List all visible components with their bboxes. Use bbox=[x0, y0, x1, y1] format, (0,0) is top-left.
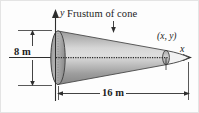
frustum-of-cone-label: Frustum of cone bbox=[67, 9, 137, 20]
x-axis-label: x bbox=[180, 44, 184, 54]
height-dimension-label: 8 m bbox=[14, 47, 31, 58]
length-dimension-label: 16 m bbox=[100, 88, 126, 99]
frustum-of-cone-figure: Frustum of cone 8 m 16 m y x (x, y) bbox=[0, 0, 199, 113]
y-axis-label: y bbox=[60, 8, 64, 18]
point-coordinate-label: (x, y) bbox=[157, 32, 177, 42]
